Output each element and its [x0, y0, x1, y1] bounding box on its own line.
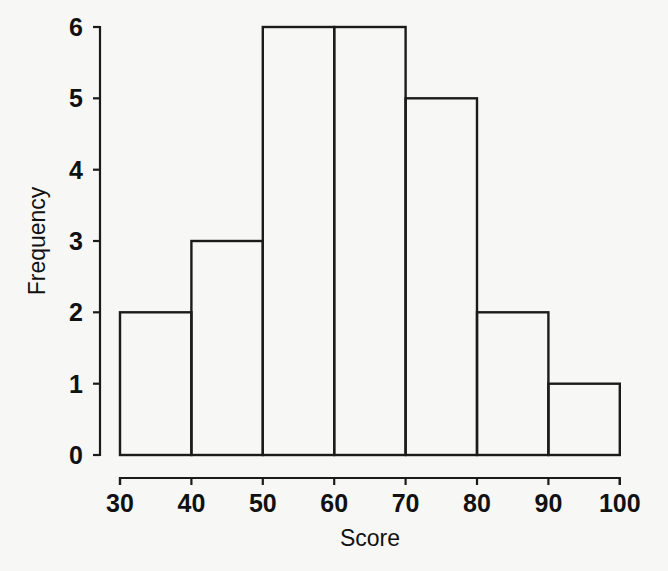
- y-tick-label-6: 6: [69, 13, 83, 41]
- x-tick-label-80: 80: [463, 489, 491, 517]
- x-tick-label-70: 70: [392, 489, 420, 517]
- histogram-bars: [120, 27, 620, 455]
- histogram-bar-80-90: [477, 312, 548, 455]
- y-tick-label-4: 4: [69, 156, 83, 184]
- y-axis-title: Frequency: [24, 186, 50, 295]
- x-tick-label-60: 60: [320, 489, 348, 517]
- y-tick-label-3: 3: [69, 227, 83, 255]
- histogram-bar-50-60: [263, 27, 334, 455]
- y-tick-label-2: 2: [69, 298, 83, 326]
- y-axis-tick-labels: 0 1 2 3 4 5 6: [69, 13, 83, 469]
- y-tick-label-1: 1: [69, 370, 83, 398]
- x-tick-label-30: 30: [106, 489, 134, 517]
- y-tick-label-0: 0: [69, 441, 83, 469]
- histogram-bar-30-40: [120, 312, 191, 455]
- y-tick-label-5: 5: [69, 84, 83, 112]
- histogram-bar-60-70: [334, 27, 405, 455]
- histogram-bar-40-50: [191, 241, 262, 455]
- plot-canvas: 0 1 2 3 4 5 6 Frequency: [0, 0, 668, 571]
- x-tick-label-40: 40: [177, 489, 205, 517]
- histogram-figure: 0 1 2 3 4 5 6 Frequency: [0, 0, 668, 571]
- x-tick-label-50: 50: [249, 489, 277, 517]
- x-axis-title: Score: [340, 525, 400, 551]
- x-axis-line: [120, 478, 620, 485]
- x-tick-label-90: 90: [534, 489, 562, 517]
- x-tick-label-100: 100: [599, 489, 641, 517]
- histogram-bar-90-100: [548, 384, 619, 455]
- x-axis-tick-labels: 30 40 50 60 70 80 90 100: [106, 489, 641, 517]
- histogram-bar-70-80: [406, 98, 477, 455]
